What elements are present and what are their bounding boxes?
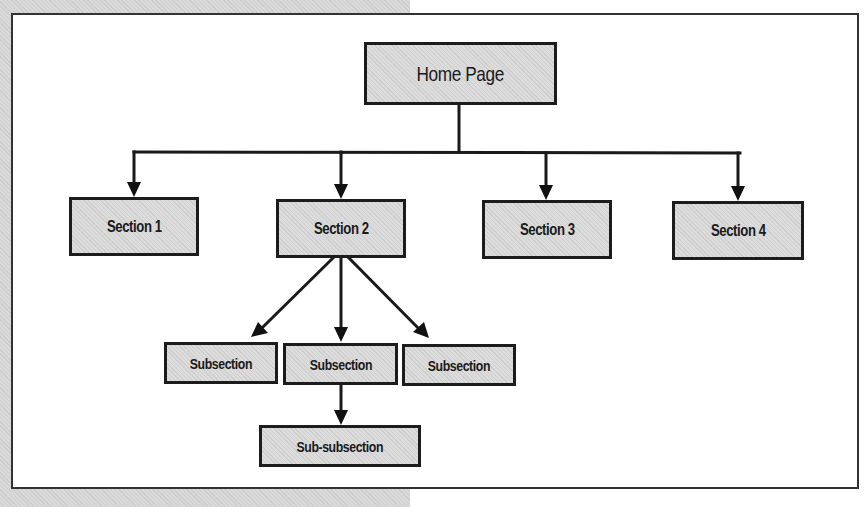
node-label: Section 3	[520, 221, 575, 239]
node-subsection-middle[interactable]: Subsection	[283, 343, 398, 385]
node-subsection-left[interactable]: Subsection	[164, 342, 278, 384]
node-section-1[interactable]: Section 1	[69, 197, 199, 256]
node-label: Subsection	[428, 357, 490, 374]
node-label: Section 2	[314, 220, 369, 238]
node-label: Section 4	[711, 222, 766, 240]
node-sub-subsection[interactable]: Sub-subsection	[259, 425, 421, 467]
node-section-2[interactable]: Section 2	[276, 199, 406, 258]
node-label: Section 1	[107, 218, 162, 236]
node-home-page[interactable]: Home Page	[364, 42, 557, 105]
background-top-strip	[410, 0, 867, 13]
node-section-3[interactable]: Section 3	[482, 200, 612, 259]
node-label: Sub-subsection	[297, 438, 384, 455]
node-section-4[interactable]: Section 4	[672, 201, 804, 260]
node-subsection-right[interactable]: Subsection	[402, 344, 516, 386]
node-label: Home Page	[417, 62, 504, 86]
node-label: Subsection	[190, 355, 252, 372]
node-label: Subsection	[309, 356, 371, 373]
